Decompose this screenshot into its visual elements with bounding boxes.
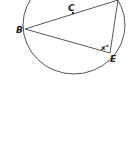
circle-diagram: B C E x° bbox=[0, 0, 138, 160]
chord-b-e bbox=[25, 29, 110, 53]
label-b: B bbox=[16, 25, 23, 35]
angle-label-x: x° bbox=[100, 44, 109, 52]
label-c: C bbox=[68, 3, 75, 13]
chord-top-e bbox=[110, 0, 118, 53]
label-e: E bbox=[110, 54, 117, 64]
